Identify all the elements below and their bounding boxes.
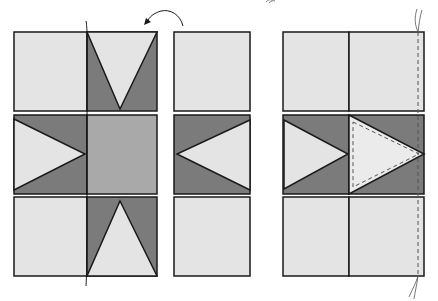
thread-end-bottom [409,276,418,299]
patch-col-bottom [174,197,250,276]
patch-r-top-left [283,32,349,111]
patch-r-bottom-right [349,197,424,276]
patch-top-left [14,32,87,111]
patch-center [87,115,157,194]
patch-r-bottom-left [283,197,349,276]
middle-column [174,32,250,276]
left-block [14,21,157,286]
patch-r-top-right [349,32,424,111]
right-block [283,9,424,299]
patch-col-top [174,32,250,111]
patch-bottom-left [14,197,87,276]
thread-mark [266,0,275,3]
thread-end-top [415,9,422,32]
quilt-diagram [0,0,438,301]
rotate-arrow-icon [144,11,183,26]
